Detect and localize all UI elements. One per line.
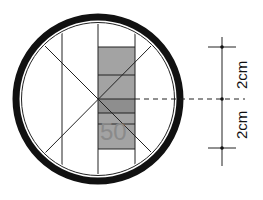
dimension-dot [220, 146, 224, 150]
dimension-label-upper: 2cm [233, 61, 250, 89]
sign-number: 50 [100, 118, 127, 145]
sign-diagram: 50 2cm 2cm [0, 0, 263, 200]
grey-bar-center [98, 99, 135, 113]
dimension-dot [220, 45, 224, 49]
dimension-dot [220, 97, 224, 101]
dimension-label-lower: 2cm [233, 111, 250, 139]
